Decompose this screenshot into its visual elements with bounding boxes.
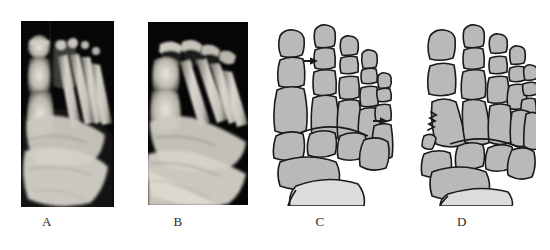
intermediate-cuneiform-d [455, 143, 484, 170]
panel-label-b: B [158, 214, 198, 230]
middle-phalanx-5-d [523, 82, 536, 96]
metatarsal-5-d [524, 112, 536, 149]
displaced-bone-fragment-d [422, 134, 436, 149]
medial-cuneiform-c [273, 132, 304, 160]
xray-b-svg [148, 22, 248, 205]
proximal-phalanx-3-c [339, 76, 359, 99]
distal-phalanx-1-c [279, 30, 305, 57]
proximal-phalanx-1-d [428, 63, 456, 96]
panel-a-image [21, 21, 114, 207]
middle-phalanx-5-c [377, 88, 392, 102]
distal-phalanx-2-d [463, 25, 484, 48]
distal-phalanx-4-d [510, 46, 526, 64]
panel-label-c: C [300, 214, 340, 230]
intermediate-cuneiform-c [307, 131, 336, 158]
proximal-phalanx-4-c [360, 86, 378, 107]
drawing-c-svg [272, 14, 394, 206]
proximal-phalanx-1-c [278, 57, 305, 88]
radiology-figure: A [0, 0, 550, 250]
bones-group-d [421, 25, 536, 201]
metatarsal-1-d [432, 99, 467, 147]
xray-a-svg [21, 21, 114, 207]
middle-phalanx-4-d [509, 66, 525, 82]
panel-d-line-drawing [418, 14, 536, 206]
bones-group-c [273, 25, 392, 191]
metatarsal-1-c [274, 87, 307, 134]
middle-phalanx-2-d [463, 48, 484, 70]
metatarsal-3-d [488, 104, 512, 145]
middle-phalanx-3-d [489, 56, 507, 74]
middle-phalanx-3-c [340, 56, 358, 74]
panel-b-image [148, 22, 248, 205]
drawing-d-svg [418, 14, 536, 206]
distal-phalanx-3-c [340, 36, 358, 55]
cuboid-d [508, 148, 536, 179]
panel-b-radiograph [148, 22, 248, 205]
distal-phalanx-2-c [314, 25, 335, 48]
panel-c-line-drawing [272, 14, 394, 206]
proximal-phalanx-2-c [313, 70, 336, 96]
proximal-phalanx-2-d [461, 70, 486, 100]
distal-phalanx-4-c [362, 50, 378, 68]
panel-label-d: D [442, 214, 482, 230]
proximal-phalanx-3-d [487, 76, 509, 103]
distal-phalanx-5-c [378, 73, 392, 89]
distal-phalanx-5-d [524, 65, 536, 81]
distal-phalanx-3-d [489, 34, 507, 53]
panel-a-radiograph [21, 21, 114, 207]
cuboid-c [360, 138, 390, 170]
middle-phalanx-2-c [314, 48, 335, 70]
panel-label-a: A [27, 214, 67, 230]
middle-phalanx-4-c [361, 68, 377, 84]
distal-phalanx-1-d [428, 30, 455, 60]
